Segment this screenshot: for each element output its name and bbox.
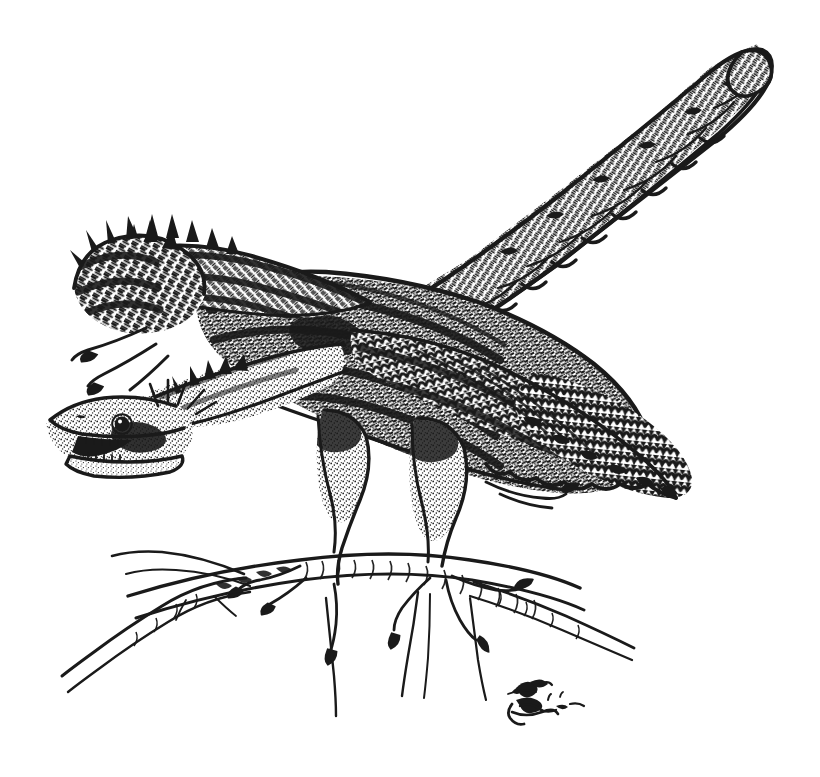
archaeopteryx-drawing <box>0 0 820 777</box>
eye <box>115 417 130 432</box>
illustration-canvas: Archaeopteryx Archaeopteryx lithographic… <box>0 0 820 777</box>
